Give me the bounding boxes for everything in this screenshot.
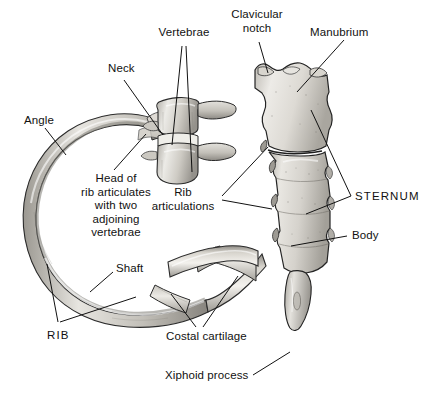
vertebra-upper-transverse-process [198, 101, 236, 119]
label-shaft: Shaft [116, 262, 143, 276]
label-clavicular-notch: Clavicular notch [214, 8, 300, 35]
label-sternum: STERNUM [355, 190, 420, 204]
anatomy-figure: Vertebrae Clavicular notch Manubrium Nec… [0, 0, 423, 398]
vertebra-lower-transverse-process [198, 143, 236, 160]
rib-articulation-notch-1 [261, 140, 267, 152]
xiphoid-foramen [293, 292, 300, 310]
leader-rib-articulations-2 [222, 200, 272, 209]
label-body: Body [352, 229, 379, 243]
label-xiphoid-process: Xiphoid process [165, 369, 248, 383]
label-costal-cartilage: Costal cartilage [166, 330, 247, 344]
label-neck: Neck [108, 62, 135, 76]
sternum-bone [255, 63, 334, 331]
label-rib-articulations: Rib articulations [144, 186, 222, 213]
costal-facet-lower [141, 151, 157, 160]
rib-notch-right-1 [326, 166, 332, 179]
rib-notch-right-3 [328, 228, 334, 242]
leader-shaft [90, 272, 113, 292]
label-manubrium: Manubrium [310, 26, 368, 40]
label-vertebrae: Vertebrae [153, 26, 215, 40]
leader-xiphoid-process [253, 352, 290, 375]
label-rib: RIB [47, 329, 69, 343]
label-angle: Angle [24, 114, 54, 128]
leader-head-of-rib [114, 134, 146, 170]
